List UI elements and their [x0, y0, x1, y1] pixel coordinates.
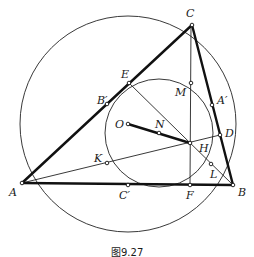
- label-f: F: [185, 189, 194, 202]
- point-m: [189, 81, 193, 85]
- point-f: [188, 183, 192, 187]
- label-a: A: [8, 186, 17, 199]
- point-d: [218, 133, 222, 137]
- label-e: E: [120, 68, 129, 81]
- point-c-prime: [126, 183, 130, 187]
- point-l: [209, 162, 213, 166]
- label-a-prime: A′: [216, 94, 228, 107]
- point-n: [157, 131, 161, 135]
- label-m: M: [174, 86, 187, 99]
- label-n: N: [154, 118, 165, 131]
- point-k: [105, 161, 109, 165]
- figure-caption: 图9.27: [111, 247, 143, 257]
- label-h: H: [198, 142, 209, 155]
- label-o: O: [115, 118, 124, 131]
- label-k: K: [93, 152, 103, 165]
- label-b-prime: B′: [96, 94, 108, 107]
- geometry-diagram: A B C O N H D E F M K L A′ B′ C′ 图9.27: [0, 0, 254, 257]
- point-a: [20, 181, 24, 185]
- point-o: [126, 122, 130, 126]
- label-b: B: [237, 186, 246, 199]
- point-b: [231, 183, 235, 187]
- label-l: L: [209, 168, 217, 181]
- label-d: D: [224, 127, 234, 140]
- point-h: [188, 141, 192, 145]
- point-c: [190, 23, 194, 27]
- label-c: C: [186, 7, 195, 20]
- altitude-from-c: [190, 25, 191, 185]
- label-c-prime: C′: [119, 189, 130, 202]
- point-e: [127, 81, 131, 85]
- point-a-prime: [210, 103, 214, 107]
